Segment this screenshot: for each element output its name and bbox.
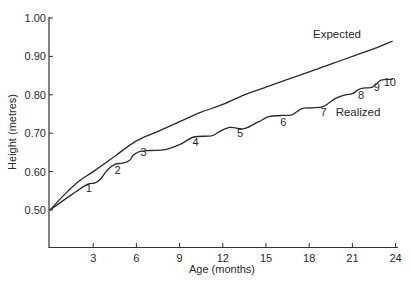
dip-marker-6: 6 xyxy=(280,116,286,128)
x-tick-label: 24 xyxy=(389,252,401,264)
dip-marker-7: 7 xyxy=(321,106,327,118)
y-axis-title: Height (metres) xyxy=(6,94,18,170)
dip-marker-10: 10 xyxy=(384,76,396,88)
dip-marker-8: 8 xyxy=(358,89,364,101)
y-tick-label: 0.50 xyxy=(25,204,46,216)
series-line-realized xyxy=(50,79,393,210)
x-tick-label: 18 xyxy=(303,252,315,264)
series-lines xyxy=(50,41,393,210)
dip-marker-4: 4 xyxy=(192,136,198,148)
series-label-realized: Realized xyxy=(336,106,381,118)
dip-marker-1: 1 xyxy=(86,182,92,194)
y-tick-label: 0.60 xyxy=(25,166,46,178)
dip-marker-3: 3 xyxy=(141,146,147,158)
x-tick-label: 21 xyxy=(346,252,358,264)
x-tick-label: 3 xyxy=(90,252,96,264)
x-ticks: 3691215182124 xyxy=(90,243,402,264)
y-tick-label: 0.90 xyxy=(25,50,46,62)
y-tick-label: 0.70 xyxy=(25,127,46,139)
dip-marker-9: 9 xyxy=(374,81,380,93)
series-line-expected xyxy=(50,41,393,210)
dip-marker-5: 5 xyxy=(237,127,243,139)
x-tick-label: 6 xyxy=(133,252,139,264)
y-tick-label: 0.80 xyxy=(25,89,46,101)
dip-marker-2: 2 xyxy=(115,164,121,176)
x-axis-title: Age (months) xyxy=(189,263,255,275)
series-label-expected: Expected xyxy=(313,28,361,40)
axes xyxy=(49,17,398,248)
x-tick-label: 15 xyxy=(260,252,272,264)
x-tick-label: 9 xyxy=(177,252,183,264)
growth-chart: 0.500.600.700.800.901.00 3691215182124 A… xyxy=(0,0,411,285)
y-tick-label: 1.00 xyxy=(25,12,46,24)
